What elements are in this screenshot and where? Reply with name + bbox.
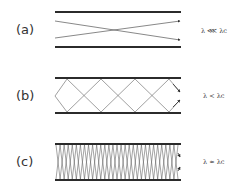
- arrow-head-top: [173, 84, 180, 92]
- ray-zigzag-2: [55, 79, 180, 112]
- panel-b-label: (b): [16, 88, 34, 103]
- panel-a-condition: λ ⋘ λc: [201, 27, 227, 35]
- dense-zigzag-rays: [56, 145, 180, 179]
- panel-b-condition: λ < λc: [203, 92, 225, 100]
- panel-c: (c) λ ≈ λc: [16, 144, 225, 180]
- panel-a-label: (a): [16, 22, 34, 37]
- panel-b: (b) λ < λc: [16, 78, 225, 113]
- waveguide-ray-diagram: (a) λ ⋘ λc (b) λ < λc (c) λ ≈ λc: [0, 0, 239, 184]
- panel-a: (a) λ ⋘ λc: [16, 12, 227, 47]
- arrow-head-bottom: [173, 100, 180, 107]
- panel-c-condition: λ ≈ λc: [203, 158, 225, 166]
- panel-c-label: (c): [16, 154, 33, 169]
